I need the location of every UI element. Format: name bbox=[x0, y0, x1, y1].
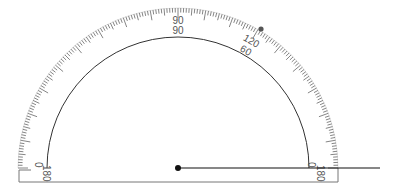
degree-tick bbox=[20, 143, 24, 144]
degree-tick bbox=[75, 45, 81, 53]
degree-tick bbox=[191, 9, 192, 16]
degree-tick bbox=[318, 98, 322, 100]
degree-tick bbox=[24, 124, 28, 125]
degree-tick bbox=[118, 20, 120, 24]
degree-tick bbox=[325, 116, 329, 117]
degree-tick bbox=[31, 105, 35, 107]
degree-tick bbox=[229, 17, 230, 21]
degree-tick bbox=[22, 132, 26, 133]
degree-tick bbox=[327, 121, 331, 122]
degree-tick bbox=[115, 21, 117, 25]
protractor-svg: 90 90 120 60 0 180 0 180 bbox=[0, 0, 397, 190]
degree-tick bbox=[226, 16, 227, 20]
degree-tick bbox=[67, 53, 70, 56]
degree-tick bbox=[55, 65, 63, 71]
degree-tick bbox=[326, 140, 336, 142]
degree-tick bbox=[134, 14, 135, 18]
degree-tick bbox=[251, 27, 253, 31]
degree-tick bbox=[57, 63, 60, 66]
degree-tick bbox=[26, 119, 30, 120]
degree-tick bbox=[23, 127, 30, 129]
degree-tick bbox=[258, 31, 260, 35]
degree-tick bbox=[52, 69, 56, 72]
degree-tick bbox=[332, 143, 336, 144]
degree-tick bbox=[274, 45, 280, 53]
degree-tick bbox=[266, 37, 270, 43]
degree-tick bbox=[38, 90, 42, 92]
degree-tick bbox=[93, 32, 95, 36]
degree-tick bbox=[41, 86, 45, 88]
degree-tick bbox=[84, 39, 87, 43]
degree-tick bbox=[156, 10, 157, 14]
degree-tick bbox=[294, 61, 297, 64]
marker-dot[interactable] bbox=[258, 26, 263, 31]
degree-tick bbox=[303, 76, 309, 80]
degree-tick bbox=[330, 154, 337, 155]
degree-tick bbox=[221, 14, 222, 18]
degree-tick bbox=[314, 90, 318, 92]
degree-tick bbox=[326, 127, 333, 129]
degree-tick bbox=[59, 61, 62, 64]
degree-tick bbox=[307, 79, 311, 82]
degree-tick bbox=[317, 95, 321, 97]
degree-tick bbox=[30, 108, 34, 110]
degree-tick bbox=[137, 13, 139, 20]
degree-tick bbox=[332, 149, 336, 150]
degree-tick bbox=[22, 135, 26, 136]
inner-arc bbox=[47, 37, 309, 168]
degree-tick bbox=[315, 93, 319, 95]
degree-tick bbox=[299, 67, 302, 70]
degree-tick bbox=[322, 108, 326, 110]
degree-tick bbox=[69, 51, 72, 54]
degree-tick bbox=[49, 74, 53, 77]
degree-tick bbox=[131, 15, 132, 19]
degree-tick bbox=[150, 10, 152, 20]
degree-tick bbox=[45, 79, 49, 82]
degree-tick bbox=[321, 105, 325, 107]
degree-tick bbox=[105, 25, 107, 29]
degree-tick bbox=[54, 67, 57, 70]
degree-tick bbox=[223, 15, 224, 19]
degree-tick bbox=[44, 81, 48, 83]
degree-tick bbox=[274, 42, 277, 46]
degree-tick bbox=[82, 40, 85, 44]
degree-tick bbox=[320, 103, 324, 105]
degree-tick bbox=[145, 12, 146, 16]
degree-tick bbox=[319, 113, 328, 116]
degree-tick bbox=[20, 146, 24, 147]
degree-tick bbox=[19, 149, 23, 150]
degree-tick bbox=[19, 154, 26, 155]
degree-tick bbox=[123, 18, 126, 27]
degree-tick bbox=[23, 129, 27, 130]
degree-tick bbox=[263, 34, 265, 38]
degree-tick bbox=[331, 137, 335, 138]
degree-tick bbox=[139, 13, 140, 17]
degree-tick bbox=[236, 20, 238, 24]
degree-tick bbox=[100, 28, 102, 32]
degree-tick bbox=[126, 17, 127, 21]
degree-tick bbox=[292, 59, 295, 62]
degree-tick bbox=[272, 40, 275, 44]
degree-tick bbox=[204, 10, 206, 20]
pivot-point[interactable] bbox=[175, 165, 181, 171]
degree-tick bbox=[113, 22, 115, 26]
degree-tick bbox=[330, 132, 334, 133]
degree-tick bbox=[73, 47, 76, 50]
degree-tick bbox=[304, 74, 308, 77]
degree-tick bbox=[216, 13, 217, 17]
degree-tick bbox=[77, 44, 80, 47]
degree-tick bbox=[202, 10, 203, 14]
degree-tick bbox=[110, 23, 113, 29]
degree-tick bbox=[269, 39, 272, 43]
inner-label-180: 180 bbox=[41, 165, 52, 182]
degree-tick bbox=[327, 124, 331, 125]
degree-tick bbox=[89, 35, 92, 39]
degree-tick bbox=[308, 81, 312, 83]
degree-tick bbox=[239, 21, 241, 25]
degree-tick bbox=[317, 100, 323, 103]
degree-tick bbox=[282, 49, 285, 52]
degree-tick bbox=[91, 34, 93, 38]
degree-tick bbox=[28, 113, 37, 116]
degree-tick bbox=[329, 129, 333, 130]
degree-tick bbox=[310, 83, 314, 85]
